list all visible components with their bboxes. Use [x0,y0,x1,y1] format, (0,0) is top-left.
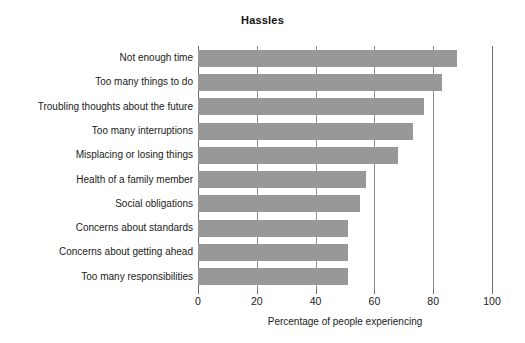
x-axis: 020406080100 [198,289,492,319]
x-tick-mark [374,289,375,294]
category-label: Too many interruptions [0,119,193,143]
x-tick-mark [492,289,493,294]
bar-slot [198,143,492,167]
category-label: Health of a family member [0,168,193,192]
category-label: Concerns about getting ahead [0,240,193,264]
x-tick-label: 0 [195,295,201,307]
x-tick-label: 100 [483,295,501,307]
bar[interactable] [198,171,366,188]
x-tick-mark [433,289,434,294]
bar-slot [198,240,492,264]
category-axis-labels: Not enough timeToo many things to doTrou… [0,46,193,289]
x-tick-label: 80 [427,295,439,307]
category-label: Troubling thoughts about the future [0,95,193,119]
x-tick-mark [198,289,199,294]
bar[interactable] [198,147,398,164]
bar[interactable] [198,268,348,285]
x-tick-label: 60 [369,295,381,307]
x-axis-title: Percentage of people experiencing [198,316,492,327]
plot-area [198,46,492,289]
bar-slot [198,95,492,119]
bar[interactable] [198,123,413,140]
x-tick-label: 40 [310,295,322,307]
category-label: Too many responsibilities [0,265,193,289]
chart-title: Hassles [0,14,525,26]
bar-slot [198,216,492,240]
bar-slot [198,265,492,289]
x-tick-mark [257,289,258,294]
x-tick-label: 20 [251,295,263,307]
category-label: Concerns about standards [0,216,193,240]
bars-group [198,46,492,289]
bar-slot [198,168,492,192]
bar[interactable] [198,244,348,261]
bar-slot [198,119,492,143]
category-label: Misplacing or losing things [0,143,193,167]
x-tick-mark [316,289,317,294]
category-label: Not enough time [0,46,193,70]
bar-slot [198,70,492,94]
bar[interactable] [198,50,457,67]
bar-slot [198,46,492,70]
bar[interactable] [198,195,360,212]
bar[interactable] [198,98,424,115]
bar-slot [198,192,492,216]
category-label: Social obligations [0,192,193,216]
bar[interactable] [198,74,442,91]
bar[interactable] [198,220,348,237]
gridline-100 [492,46,493,289]
bar-chart-figure: Hassles Not enough timeToo many things t… [0,0,525,343]
category-label: Too many things to do [0,70,193,94]
